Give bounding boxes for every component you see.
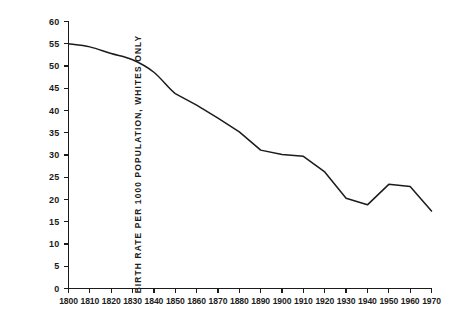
y-tick-label: 55 bbox=[36, 39, 60, 48]
birth-rate-line bbox=[69, 44, 432, 211]
chart-figure: BIRTH RATE PER 1000 POPULATION, WHITES O… bbox=[0, 0, 460, 328]
y-tick-label: 5 bbox=[36, 262, 60, 271]
y-tick-label: 30 bbox=[36, 151, 60, 160]
y-tick-label: 35 bbox=[36, 128, 60, 137]
y-tick-label: 50 bbox=[36, 62, 60, 71]
y-tick-label: 0 bbox=[36, 284, 60, 293]
data-series bbox=[69, 44, 432, 211]
plot-area bbox=[0, 0, 460, 328]
y-tick-label: 25 bbox=[36, 173, 60, 182]
y-tick-label: 10 bbox=[36, 240, 60, 249]
y-tick-label: 20 bbox=[36, 195, 60, 204]
y-tick-label: 15 bbox=[36, 217, 60, 226]
axes bbox=[69, 22, 432, 289]
y-tick-label: 60 bbox=[36, 17, 60, 26]
x-tick-label: 1970 bbox=[417, 297, 447, 306]
y-tick-label: 45 bbox=[36, 84, 60, 93]
y-tick-label: 40 bbox=[36, 106, 60, 115]
